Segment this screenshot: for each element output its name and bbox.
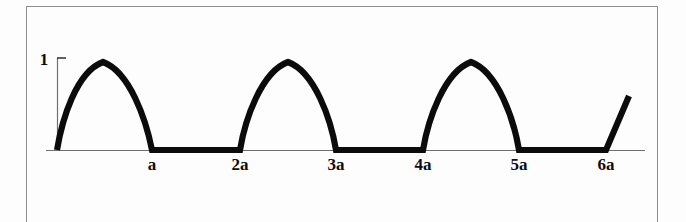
x-axis-label-a: a xyxy=(129,155,175,175)
x-axis-label-6a: 6a xyxy=(583,155,629,175)
x-axis-label-5a: 5a xyxy=(496,155,542,175)
x-axis-label-3a: 3a xyxy=(313,155,359,175)
x-axis-label-4a: 4a xyxy=(400,155,446,175)
rectified-sine-curve xyxy=(57,62,629,150)
x-axis-label-2a: 2a xyxy=(217,155,263,175)
figure-root: 1 a 2a 3a 4a 5a 6a xyxy=(0,0,686,222)
plot-canvas xyxy=(0,0,686,222)
y-axis-label-1: 1 xyxy=(36,50,52,70)
